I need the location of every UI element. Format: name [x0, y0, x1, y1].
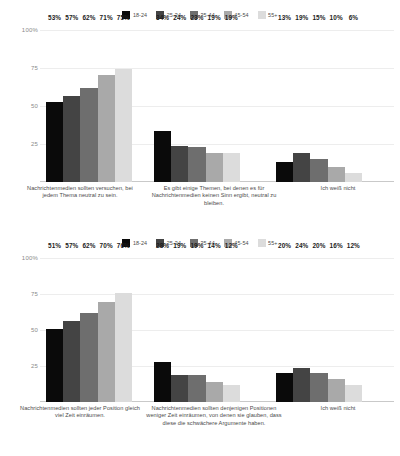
bar-25-34-cat1[interactable]: 19% — [171, 250, 188, 402]
bar-rect — [154, 362, 171, 402]
legend-swatch-icon — [258, 239, 266, 247]
bar-25-34-cat1[interactable]: 24% — [171, 22, 188, 182]
y-tick-25: 25 — [31, 363, 38, 369]
bar-35-44-cat0[interactable]: 62% — [80, 22, 97, 182]
bar-value-label: 76% — [117, 242, 130, 249]
bar-55+-cat0[interactable]: 75% — [115, 22, 132, 182]
bar-rect — [223, 385, 240, 402]
bar-25-34-cat0[interactable]: 57% — [63, 250, 80, 402]
bar-value-label: 12% — [225, 242, 238, 249]
y-axis-2: 100% 75 50 25 — [0, 250, 44, 402]
bar-group-1: 28%19%19%14%12% — [154, 250, 240, 402]
y-tick-50: 50 — [31, 327, 38, 333]
chart-panel-2: 18-24 25-34 35-44 45-54 55+ 100% 75 50 2… — [0, 228, 400, 456]
bar-25-34-cat2[interactable]: 24% — [293, 250, 310, 402]
legend-swatch-icon — [258, 11, 266, 19]
category-label-0: Nachrichtenmedien sollten versuchen, bei… — [20, 185, 140, 200]
bar-rect — [80, 313, 97, 402]
bar-value-label: 12% — [347, 242, 360, 249]
y-tick-50: 50 — [31, 103, 38, 109]
bar-group-0: 51%57%62%70%76% — [46, 250, 132, 402]
y-tick-100: 100% — [22, 255, 38, 261]
bar-35-44-cat0[interactable]: 62% — [80, 250, 97, 402]
bar-value-label: 19% — [190, 242, 203, 249]
bar-group-0: 53%57%62%71%75% — [46, 22, 132, 182]
bar-value-label: 24% — [295, 242, 308, 249]
y-axis-1: 100% 75 50 25 — [0, 22, 44, 182]
bar-group-2: 20%24%20%16%12% — [276, 250, 362, 402]
bar-55+-cat1[interactable]: 12% — [223, 250, 240, 402]
category-label-0: Nachrichtenmedien sollten jeder Position… — [18, 405, 142, 420]
bar-value-label: 20% — [278, 242, 291, 249]
bar-value-label: 70% — [100, 242, 113, 249]
bar-rect — [188, 375, 205, 402]
bar-group-1: 34%24%23%19%19% — [154, 22, 240, 182]
bar-rect — [63, 321, 80, 403]
category-label-2: Ich weiß nicht — [288, 405, 388, 412]
bar-45-54-cat1[interactable]: 19% — [206, 22, 223, 182]
category-label-1: Nachrichtenmedien sollten denjenigen Pos… — [146, 405, 282, 427]
bar-45-54-cat1[interactable]: 14% — [206, 250, 223, 402]
bar-18-24-cat2[interactable]: 13% — [276, 22, 293, 182]
bar-45-54-cat2[interactable]: 10% — [328, 22, 345, 182]
bar-rect — [206, 382, 223, 402]
bar-value-label: 14% — [208, 242, 221, 249]
bar-value-label: 23% — [190, 14, 203, 21]
bar-rect — [276, 162, 293, 182]
bar-value-label: 62% — [82, 14, 95, 21]
bars-layer-1: 53%57%62%71%75%34%24%23%19%19%13%19%15%1… — [44, 22, 392, 182]
bar-value-label: 19% — [173, 242, 186, 249]
bar-rect — [345, 173, 362, 182]
bar-18-24-cat2[interactable]: 20% — [276, 250, 293, 402]
bar-rect — [98, 75, 115, 182]
bar-value-label: 15% — [312, 14, 325, 21]
bar-group-2: 13%19%15%10%6% — [276, 22, 362, 182]
bar-rect — [98, 302, 115, 402]
bar-55+-cat2[interactable]: 12% — [345, 250, 362, 402]
bar-value-label: 51% — [48, 242, 61, 249]
legend-label: 55+ — [268, 11, 277, 19]
bars-layer-2: 51%57%62%70%76%28%19%19%14%12%20%24%20%1… — [44, 250, 392, 402]
bar-18-24-cat0[interactable]: 53% — [46, 22, 63, 182]
bar-55+-cat0[interactable]: 76% — [115, 250, 132, 402]
bar-55+-cat1[interactable]: 19% — [223, 22, 240, 182]
bar-rect — [188, 147, 205, 182]
bar-45-54-cat0[interactable]: 70% — [98, 250, 115, 402]
bar-25-34-cat0[interactable]: 57% — [63, 22, 80, 182]
legend-item-55-plus[interactable]: 55+ — [258, 239, 278, 247]
bar-rect — [115, 69, 132, 182]
bar-35-44-cat2[interactable]: 15% — [310, 22, 327, 182]
chart-panel-1: 18-24 25-34 35-44 45-54 55+ 100% 75 50 2… — [0, 0, 400, 228]
bar-45-54-cat2[interactable]: 16% — [328, 250, 345, 402]
bar-rect — [276, 373, 293, 402]
bar-value-label: 19% — [208, 14, 221, 21]
bar-rect — [223, 153, 240, 182]
bar-value-label: 62% — [82, 242, 95, 249]
bar-rect — [328, 167, 345, 182]
y-tick-75: 75 — [31, 65, 38, 71]
bar-18-24-cat1[interactable]: 34% — [154, 22, 171, 182]
bar-rect — [171, 375, 188, 402]
bar-35-44-cat1[interactable]: 23% — [188, 22, 205, 182]
bar-value-label: 28% — [156, 242, 169, 249]
bar-25-34-cat2[interactable]: 19% — [293, 22, 310, 182]
bar-45-54-cat0[interactable]: 71% — [98, 22, 115, 182]
bar-value-label: 16% — [330, 242, 343, 249]
bar-value-label: 6% — [349, 14, 358, 21]
bar-35-44-cat2[interactable]: 20% — [310, 250, 327, 402]
bar-rect — [293, 153, 310, 182]
bar-18-24-cat0[interactable]: 51% — [46, 250, 63, 402]
bar-35-44-cat1[interactable]: 19% — [188, 250, 205, 402]
bar-value-label: 75% — [117, 14, 130, 21]
bar-rect — [63, 96, 80, 182]
y-tick-75: 75 — [31, 291, 38, 297]
bar-rect — [328, 379, 345, 402]
bar-value-label: 20% — [312, 242, 325, 249]
legend-label: 18-24 — [133, 239, 147, 247]
bar-18-24-cat1[interactable]: 28% — [154, 250, 171, 402]
legend-item-55-plus[interactable]: 55+ — [258, 11, 278, 19]
bar-value-label: 53% — [48, 14, 61, 21]
bar-55+-cat2[interactable]: 6% — [345, 22, 362, 182]
bar-value-label: 24% — [173, 14, 186, 21]
bar-value-label: 34% — [156, 14, 169, 21]
